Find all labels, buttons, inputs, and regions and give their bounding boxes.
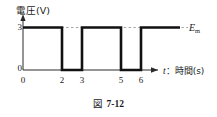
figure-caption: 図 7-12 [0,96,217,110]
figure-caption-label: 図 [93,98,103,109]
figure-caption-number: 7-12 [107,99,124,109]
x-tick-label-0: 0 [17,75,29,85]
y-tick-label-0: 0 [12,63,22,73]
figure-container: 電圧(V) 3 0 0 2 3 5 6 t：時間(s) Em 図 7-12 [0,0,217,117]
x-axis-title: t：時間(s) [163,64,204,77]
y-axis-title: 電圧(V) [16,3,50,17]
y-tick-label-3: 3 [12,22,22,32]
emf-subscript: m [195,27,200,34]
voltage-waveform-trace [23,28,180,71]
x-tick-label-5: 5 [115,75,127,85]
x-tick-label-3: 3 [76,75,88,85]
emf-level-label: Em [189,22,200,33]
x-axis-title-text: ：時間(s) [166,66,205,76]
x-tick-label-6: 6 [135,75,147,85]
x-tick-label-2: 2 [56,75,68,85]
x-axis-arrowhead [151,67,158,73]
